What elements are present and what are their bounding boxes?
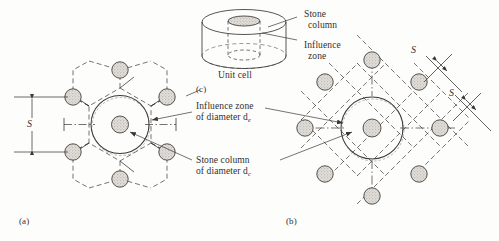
dimension-label-s-right-2: S bbox=[449, 87, 454, 98]
panel-c-unit-cell bbox=[202, 10, 297, 69]
dimension-label-s-left: S bbox=[27, 118, 32, 129]
stone-column-diameter-prefix: of diameter bbox=[196, 166, 243, 176]
dimension-s-left bbox=[14, 97, 68, 152]
label-stone-column-top-line2: column bbox=[308, 20, 337, 31]
dimension-label-s-right-1: S bbox=[411, 44, 416, 55]
stone-column-center-a bbox=[112, 116, 129, 133]
label-stone-column-line1: Stone column bbox=[196, 155, 250, 166]
label-influence-zone-top-line2: zone bbox=[308, 51, 326, 62]
subfigure-label-b: (b) bbox=[286, 216, 297, 227]
label-stone-column-top-line1: Stone bbox=[304, 9, 326, 20]
dimension-s-right-1 bbox=[424, 54, 462, 92]
dimension-s-right-2 bbox=[453, 93, 491, 131]
label-influence-zone-line2: of diameter de bbox=[196, 112, 251, 125]
subfigure-label-a: (a) bbox=[19, 216, 29, 227]
stone-column-diameter-subscript: c bbox=[248, 170, 251, 177]
figure-root: Stone column Influence zone Unit cell (c… bbox=[0, 0, 499, 241]
subfigure-label-c: (c) bbox=[196, 84, 206, 95]
influence-zone-diameter-subscript: e bbox=[248, 116, 251, 123]
label-unit-cell: Unit cell bbox=[218, 70, 252, 81]
label-stone-column-line2: of diameter dc bbox=[196, 166, 251, 179]
label-influence-zone-top-line1: Influence bbox=[304, 40, 341, 51]
stone-column-center-b bbox=[363, 119, 381, 137]
label-influence-zone-line1: Influence zone bbox=[196, 101, 254, 112]
influence-zone-diameter-prefix: of diameter bbox=[196, 112, 243, 122]
panel-a bbox=[14, 61, 176, 188]
